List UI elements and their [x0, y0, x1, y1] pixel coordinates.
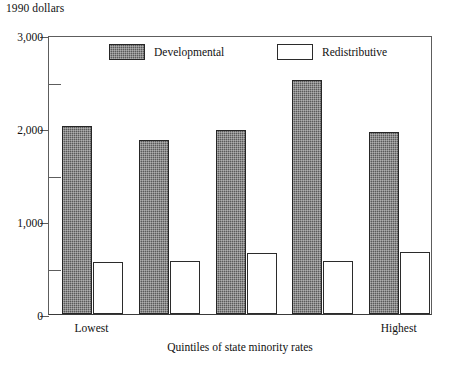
legend-label-developmental: Developmental: [154, 46, 224, 58]
x-axis-title: Quintiles of state minority rates: [167, 341, 313, 353]
bar-redistributive-5: [400, 252, 430, 314]
y-axis-tick-label: 3,000: [3, 31, 43, 43]
legend-swatch-developmental: [109, 44, 145, 60]
y-axis-tick-minor: [49, 84, 61, 85]
bar-developmental-3: [216, 130, 246, 314]
legend-item-developmental: Developmental: [109, 43, 224, 61]
legend-swatch-redistributive: [277, 44, 313, 60]
bar-redistributive-4: [323, 261, 353, 314]
y-axis-tick-minor: [49, 177, 61, 178]
bar-developmental-4: [292, 80, 322, 314]
legend-item-redistributive: Redistributive: [277, 43, 387, 61]
bar-developmental-2: [139, 140, 169, 314]
y-axis-unit-label: 1990 dollars: [6, 2, 64, 14]
x-axis-label-lowest: Lowest: [75, 322, 109, 334]
bar-redistributive-3: [247, 253, 277, 314]
y-axis-tick-minor: [49, 270, 61, 271]
plot-area: DevelopmentalRedistributive 01,0002,0003…: [48, 36, 432, 315]
legend-label-redistributive: Redistributive: [322, 46, 387, 58]
bar-redistributive-1: [93, 262, 123, 314]
chart-legend: DevelopmentalRedistributive: [49, 37, 433, 71]
y-axis-tick-label: 0: [3, 310, 43, 322]
bar-redistributive-2: [170, 261, 200, 314]
x-axis-label-highest: Highest: [381, 322, 417, 334]
bar-developmental-1: [62, 126, 92, 314]
y-axis-tick-label: 1,000: [3, 217, 43, 229]
bar-chart: 1990 dollars DevelopmentalRedistributive…: [0, 0, 451, 367]
bar-developmental-5: [369, 132, 399, 314]
y-axis-tick-label: 2,000: [3, 124, 43, 136]
